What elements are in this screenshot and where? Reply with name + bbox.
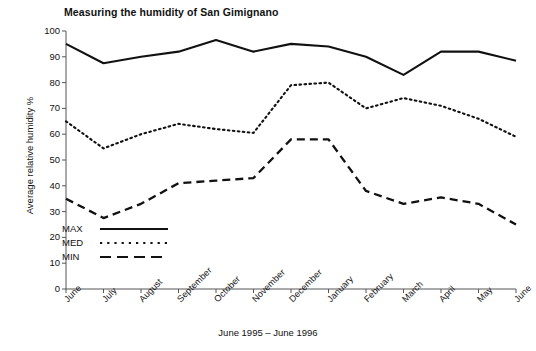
x-tick-label: January (325, 274, 355, 304)
legend-swatch-max-solid (98, 224, 180, 234)
chart-legend: MAX MED MIN (62, 222, 180, 264)
x-tick-label: October (212, 274, 242, 304)
x-tick-label: April (437, 284, 457, 304)
legend-label-max: MAX (62, 222, 98, 236)
x-tick-label: May (475, 285, 494, 304)
x-tick-label: September (175, 265, 214, 304)
legend-label-min: MIN (62, 250, 98, 264)
x-axis-label: June 1995 – June 1996 (0, 327, 536, 338)
x-tick-label: February (362, 271, 395, 304)
x-axis-ticks: JuneJulyAugustSeptemberOctoberNovemberDe… (0, 0, 536, 351)
x-tick-label: March (400, 279, 425, 304)
x-tick-label: December (287, 267, 324, 304)
x-tick-label: June (62, 283, 83, 304)
x-tick-label: August (137, 277, 164, 304)
x-tick-label: November (250, 267, 287, 304)
x-tick-label: July (100, 285, 119, 304)
legend-swatch-med-dotted (98, 238, 180, 248)
legend-entry-min: MIN (62, 250, 180, 264)
legend-entry-max: MAX (62, 222, 180, 236)
legend-label-med: MED (62, 236, 98, 250)
legend-swatch-min-dashed (98, 252, 180, 262)
humidity-line-chart: Measuring the humidity of San Gimignano … (0, 0, 536, 351)
x-tick-label: June (512, 283, 533, 304)
legend-entry-med: MED (62, 236, 180, 250)
